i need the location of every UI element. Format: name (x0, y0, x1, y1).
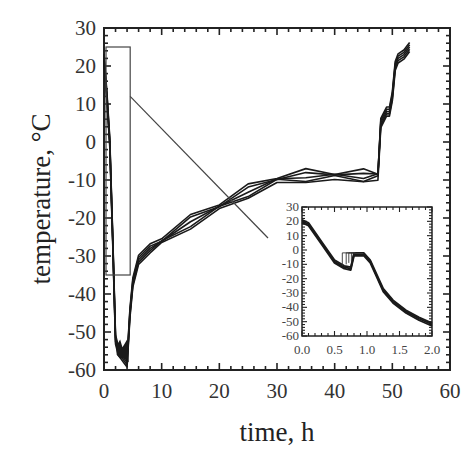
inset-y-tick-label: -50 (282, 314, 299, 329)
main-x-tick-label: 10 (151, 379, 172, 403)
inset-x-tick-label: 2.0 (424, 342, 440, 357)
main-y-tick-label: -30 (68, 244, 96, 268)
inset-y-tick-label: 10 (286, 228, 299, 243)
inset-y-tick-label: 20 (286, 213, 299, 228)
main-x-tick-label: 60 (440, 379, 461, 403)
main-y-tick-label: -10 (68, 168, 96, 192)
temperature-chart: 01020304050603020100-10-20-30-40-50-60 0… (0, 0, 472, 458)
y-axis-title: temperature, °C (26, 113, 56, 284)
main-x-tick-label: 40 (324, 379, 345, 403)
inset-x-tick-label: 0.5 (326, 342, 342, 357)
main-y-tick-label: 30 (75, 16, 96, 40)
inset-plot: 0.00.51.01.52.03020100-10-20-30-40-50-60 (270, 199, 440, 360)
inset-y-tick-label: 30 (286, 199, 299, 214)
main-y-tick-label: -20 (68, 206, 96, 230)
x-axis-title: time, h (240, 417, 315, 447)
main-x-tick-label: 0 (99, 379, 110, 403)
inset-y-tick-label: -10 (282, 256, 299, 271)
main-x-tick-label: 30 (267, 379, 288, 403)
main-x-tick-label: 20 (209, 379, 230, 403)
main-x-tick-label: 50 (382, 379, 403, 403)
inset-y-tick-label: -20 (282, 271, 299, 286)
main-y-tick-label: -50 (68, 320, 96, 344)
inset-x-tick-label: 0.0 (294, 342, 310, 357)
inset-x-tick-label: 1.5 (391, 342, 407, 357)
inset-y-tick-label: 0 (293, 242, 300, 257)
main-y-tick-label: 20 (75, 54, 96, 78)
main-y-tick-label: -60 (68, 358, 96, 382)
inset-y-tick-label: -30 (282, 285, 299, 300)
inset-y-tick-label: -60 (282, 328, 299, 343)
main-y-tick-label: -40 (68, 282, 96, 306)
main-y-tick-label: 10 (75, 92, 96, 116)
inset-x-tick-label: 1.0 (359, 342, 375, 357)
inset-y-tick-label: -40 (282, 299, 299, 314)
main-y-tick-label: 0 (86, 130, 97, 154)
